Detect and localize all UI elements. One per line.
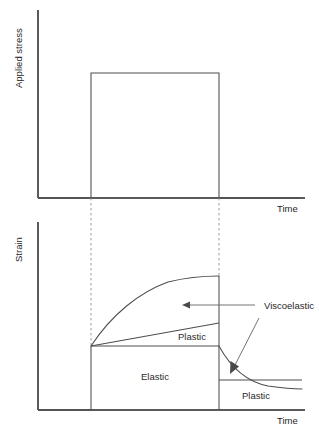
- plastic-loading-label: Plastic: [178, 331, 206, 342]
- top-panel: [38, 10, 305, 198]
- plastic-residual-label: Plastic: [242, 390, 270, 401]
- elastic-label: Elastic: [141, 371, 169, 382]
- viscoelastic-label: Viscoelastic: [264, 300, 314, 311]
- bottom-panel-time-axis-label: Time: [277, 415, 298, 426]
- strain-axis-label: Strain: [13, 237, 24, 262]
- top-panel-time-axis-label: Time: [277, 203, 298, 214]
- time-guides: [91, 198, 219, 346]
- applied-stress-step-curve: [38, 73, 300, 198]
- bottom-panel: [38, 222, 305, 410]
- viscoelastic-arrow-head-diagonal: [230, 361, 239, 374]
- viscoelastic-leader-diagonal: [234, 318, 259, 367]
- applied-stress-axis-label: Applied stress: [13, 28, 24, 88]
- figure-canvas: Applied stress Time Strain Time Viscoela…: [0, 0, 319, 431]
- creep-recovery-figure: Applied stress Time Strain Time Viscoela…: [0, 0, 319, 431]
- viscoelastic-arrow-head-left: [182, 302, 190, 309]
